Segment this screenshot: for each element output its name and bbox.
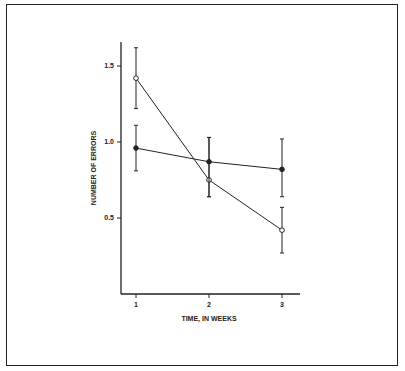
x-tick-label: 3 — [280, 301, 284, 308]
y-tick-label: 1.0 — [104, 138, 114, 145]
x-tick-label: 1 — [134, 301, 138, 308]
x-tick-label: 2 — [207, 301, 211, 308]
y-axis-label: NUMBER OF ERRORS — [90, 131, 97, 206]
y-tick-label: 0.5 — [104, 214, 114, 221]
data-point — [280, 167, 285, 172]
y-tick-label: 1.5 — [104, 62, 114, 69]
data-point — [134, 76, 139, 81]
data-point — [207, 159, 212, 164]
x-axis-label: TIME, IN WEEKS — [181, 315, 237, 323]
data-point — [134, 146, 139, 151]
line-chart: 0.51.01.5123TIME, IN WEEKSNUMBER OF ERRO… — [0, 0, 405, 371]
data-point — [280, 228, 285, 233]
